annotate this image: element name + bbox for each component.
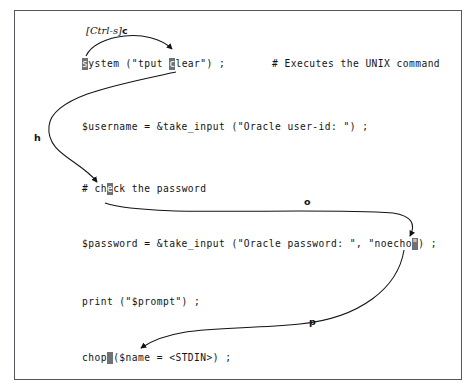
code-text-chop-before: chop	[82, 352, 107, 363]
code-line-print: print ("$prompt") ;	[82, 296, 200, 308]
code-line-chop: chop ($name = <STDIN>) ;	[82, 352, 231, 364]
code-text-check-before: # ch	[82, 183, 107, 194]
code-line-system: system ("tput clear") ;	[82, 58, 225, 70]
code-line-password: $password = &take_input ("Oracle passwor…	[82, 238, 437, 250]
annotation-ctrl-s-key: [Ctrl-s]	[86, 25, 122, 36]
code-line-check-comment: # check the password	[82, 183, 207, 195]
annotation-ctrl-s: [Ctrl-s]c	[86, 25, 128, 36]
code-text-check-after: ck the password	[113, 183, 206, 194]
code-text-system-end: lear") ;	[175, 58, 225, 69]
code-line-username: $username = &take_input ("Oracle user-id…	[82, 121, 368, 133]
code-text-password-after: ) ;	[418, 238, 437, 249]
figure-canvas: [Ctrl-s]c h o p system ("tput clear") ; …	[0, 0, 475, 392]
annotation-h: h	[34, 132, 41, 143]
code-text-system-mid: ystem ("tput	[88, 58, 169, 69]
code-text-chop-after: ($name = <STDIN>) ;	[113, 352, 231, 363]
annotation-p: p	[309, 316, 316, 327]
annotation-ctrl-s-command: c	[122, 25, 128, 36]
code-text-password-before: $password = &take_input ("Oracle passwor…	[82, 238, 412, 249]
code-comment-executes: # Executes the UNIX command	[272, 58, 440, 70]
annotation-o: o	[304, 196, 311, 207]
